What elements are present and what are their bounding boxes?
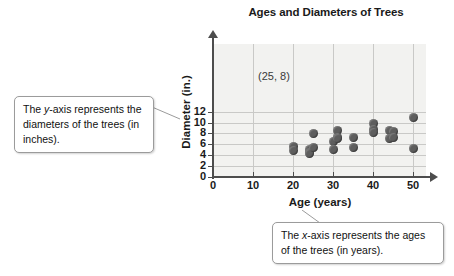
x-axis-title: Age (years)	[240, 196, 400, 208]
data-point	[329, 145, 338, 154]
y-tick-mark	[208, 112, 212, 113]
data-point	[349, 133, 358, 142]
y-tick-mark	[208, 166, 212, 167]
gridline-horizontal	[213, 155, 426, 156]
y-tick-mark	[208, 155, 212, 156]
x-axis-arrow-icon	[430, 172, 438, 182]
data-point	[289, 146, 298, 155]
data-point	[409, 144, 418, 153]
gridline-horizontal	[213, 112, 426, 113]
gridline-horizontal	[213, 144, 426, 145]
gridline-vertical	[373, 44, 374, 177]
gridline-vertical	[293, 44, 294, 177]
y-tick-mark	[208, 177, 212, 178]
callout-x-axis: The x-axis represents the ages of the tr…	[272, 222, 444, 264]
y-tick-mark	[208, 123, 212, 124]
data-point	[349, 143, 358, 152]
y-tick-mark	[208, 133, 212, 134]
data-point	[309, 143, 318, 152]
y-axis-line	[212, 36, 214, 179]
x-axis-line	[212, 176, 434, 178]
x-tick-mark	[253, 172, 254, 176]
callout-x-axis-text-pre: The	[281, 229, 302, 241]
x-tick-mark	[213, 172, 214, 176]
gridline-vertical	[333, 44, 334, 177]
x-tick-mark	[413, 172, 414, 176]
x-tick-label: 40	[358, 179, 388, 191]
data-point	[333, 134, 342, 143]
x-tick-mark	[333, 172, 334, 176]
callout-left-pointer-icon	[152, 105, 182, 125]
x-tick-mark	[373, 172, 374, 176]
gridline-horizontal	[213, 123, 426, 124]
callout-y-axis: The y-axis represents the diameters of t…	[14, 96, 154, 153]
x-tick-mark	[293, 172, 294, 176]
gridline-horizontal	[213, 166, 426, 167]
data-point	[389, 133, 398, 142]
plot-area	[213, 44, 426, 177]
x-tick-label: 30	[318, 179, 348, 191]
gridline-vertical	[413, 44, 414, 177]
y-tick-mark	[208, 144, 212, 145]
x-tick-label: 20	[278, 179, 308, 191]
figure-page: Ages and Diameters of Trees 01020304050 …	[0, 0, 454, 276]
x-tick-label: 50	[398, 179, 428, 191]
y-axis-arrow-icon	[208, 30, 218, 38]
gridline-vertical	[253, 44, 254, 177]
x-tick-label: 10	[238, 179, 268, 191]
data-point	[409, 113, 418, 122]
point-annotation-25-8: (25, 8)	[258, 70, 290, 82]
callout-y-axis-text-pre: The	[23, 103, 44, 115]
data-point	[369, 128, 378, 137]
data-point	[309, 129, 318, 138]
